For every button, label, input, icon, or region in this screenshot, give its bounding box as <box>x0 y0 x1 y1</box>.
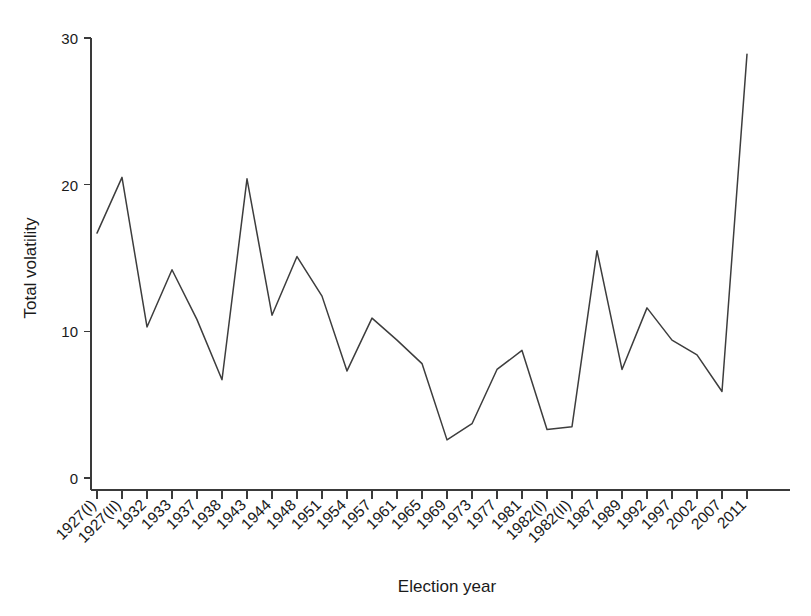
figure-container: 0102030 1927(I)1927(II)19321933193719381… <box>0 0 811 616</box>
line-chart: 0102030 1927(I)1927(II)19321933193719381… <box>0 0 811 616</box>
y-tick-label: 0 <box>70 470 78 487</box>
x-axis-title: Election year <box>398 577 497 596</box>
y-tick-label: 20 <box>61 177 78 194</box>
y-tick-label: 30 <box>61 30 78 47</box>
y-axis-title: Total volatility <box>21 217 40 319</box>
y-tick-label: 10 <box>61 323 78 340</box>
